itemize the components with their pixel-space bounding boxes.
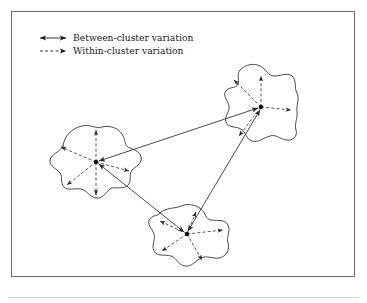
within-arrow-bottom-4: [162, 234, 187, 251]
within-arrow-left-5: [61, 147, 96, 162]
legend-label-between: Between-cluster variation: [73, 32, 193, 43]
within-arrow-left-2: [96, 162, 129, 171]
within-arrow-bottom-2: [187, 230, 223, 234]
within-arrow-topright-3: [239, 107, 261, 136]
cluster-centroids: [94, 105, 263, 236]
legend: Between-cluster variation Within-cluster…: [40, 32, 193, 56]
centroid-top-right: [259, 105, 263, 109]
between-arrow-left-bottom: [99, 164, 184, 232]
within-arrow-topright-4: [234, 80, 261, 107]
within-arrow-bottom-3: [187, 234, 202, 260]
within-arrow-topright-2: [261, 107, 291, 110]
centroid-bottom: [185, 232, 189, 236]
cluster-variation-diagram: Between-cluster variation Within-cluster…: [0, 0, 367, 303]
legend-label-within: Within-cluster variation: [73, 45, 184, 56]
legend-item-within: Within-cluster variation: [40, 45, 184, 56]
between-cluster-arrows: [99, 108, 260, 232]
within-cluster-arrows: [61, 76, 291, 260]
cluster-outline-top-right: [225, 64, 298, 141]
figure-root: Between-cluster variation Within-cluster…: [0, 0, 367, 303]
within-arrow-bottom-5: [160, 221, 187, 234]
within-arrow-left-4: [67, 162, 96, 185]
centroid-left: [94, 160, 98, 164]
legend-item-between: Between-cluster variation: [40, 32, 193, 43]
